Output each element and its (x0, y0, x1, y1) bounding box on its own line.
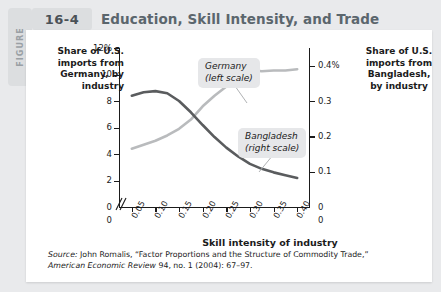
legend-bangladesh-line2: (right scale) (245, 143, 299, 155)
figure-tab-label: FIGURE (16, 27, 25, 67)
source-prefix: Source: (48, 250, 78, 259)
y-tick-left (114, 101, 119, 102)
y-tick-left (114, 181, 119, 182)
figure-number: 16-4 (32, 8, 92, 30)
right-axis-caption: Share of U.S. imports from Bangladesh, b… (360, 46, 438, 92)
y-tick-label-left: 0 (78, 202, 112, 212)
y-tick-label-left: 10 (78, 69, 112, 79)
y-tick-left (114, 48, 119, 49)
y-tick-label-left: 12% (78, 43, 112, 53)
legend-germany-line2: (left scale) (205, 73, 253, 85)
y-tick-label-right: 0 (318, 202, 352, 212)
y-tick-label-left: 8 (78, 96, 112, 106)
x-zero-right-label: 0 (318, 215, 352, 225)
legend-germany: Germany (left scale) (198, 58, 260, 88)
y-tick-label-left: 4 (78, 149, 112, 159)
y-tick-left (114, 75, 119, 76)
source-note: Source: John Romalis, “Factor Proportion… (48, 250, 398, 271)
y-tick-label-right: 0.3 (318, 96, 352, 106)
y-axis-right-line (309, 48, 310, 208)
y-tick-label-left: 2 (78, 175, 112, 185)
y-tick-left (114, 128, 119, 129)
source-line2: 94, no. 1 (2004): 67–97. (156, 261, 253, 270)
y-tick-label-left: 6 (78, 122, 112, 132)
figure-container: FIGURE 16-4 Education, Skill Intensity, … (0, 0, 441, 292)
legend-bangladesh: Bangladesh (right scale) (238, 128, 306, 158)
y-tick-right (310, 136, 315, 137)
y-tick-label-right: 0.2 (318, 131, 352, 141)
figure-title: Education, Skill Intensity, and Trade (101, 8, 379, 30)
legend-bangladesh-line1: Bangladesh (245, 131, 299, 143)
y-tick-right (310, 172, 315, 173)
x-zero-left-label: 0 (78, 215, 112, 225)
source-line1: John Romalis, “Factor Proportions and th… (78, 250, 369, 259)
x-axis-label: Skill intensity of industry (160, 237, 380, 248)
source-journal: American Economic Review (48, 261, 156, 270)
y-tick-right (310, 101, 315, 102)
y-tick-label-right: 0.4% (318, 60, 352, 70)
legend-germany-line1: Germany (205, 61, 253, 73)
y-tick-label-right: 0.1 (318, 166, 352, 176)
y-tick-right (310, 66, 315, 67)
y-tick-left (114, 154, 119, 155)
